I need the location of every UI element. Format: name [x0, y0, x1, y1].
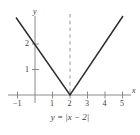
y-tick-label-2: 2	[25, 40, 29, 48]
absolute-value-graph-figure: y x −1 1 2 3 4 5 1 2 y = |x − 2|	[0, 0, 140, 135]
figure-caption: y = |x − 2|	[0, 113, 140, 122]
x-axis-label: x	[132, 87, 136, 95]
x-tick-label--1: −1	[13, 100, 22, 108]
y-axis-label: y	[33, 8, 37, 16]
y-tick-label-1: 1	[25, 66, 29, 74]
x-tick-label-2: 2	[68, 100, 72, 108]
x-tick-label-5: 5	[120, 100, 124, 108]
x-tick-label-3: 3	[85, 100, 89, 108]
x-tick-label-4: 4	[103, 100, 107, 108]
x-tick-label-1: 1	[50, 100, 54, 108]
